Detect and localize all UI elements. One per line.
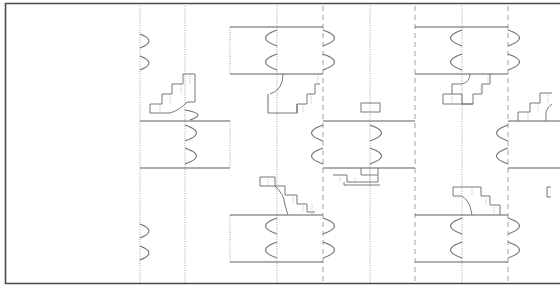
door-swing-icon <box>185 125 197 141</box>
door-swing-icon <box>451 218 463 234</box>
staircase-icon <box>453 187 500 215</box>
room-module <box>140 121 230 168</box>
stair-landing-icon <box>361 103 380 112</box>
door-swing-icon <box>312 125 324 141</box>
door-swing-icon <box>323 242 335 258</box>
door-swing-icon <box>312 148 324 164</box>
rooms <box>140 27 560 262</box>
room-module <box>230 215 323 262</box>
door-swing-icon <box>370 125 382 141</box>
door-swing-icon <box>508 54 520 70</box>
staircase-icon <box>260 177 315 215</box>
stair-landing-icon <box>547 187 551 197</box>
door-swing-icon <box>266 30 278 46</box>
floor-plan-svg <box>0 0 560 287</box>
door-swing-icon <box>323 54 335 70</box>
door-swing-icon <box>266 54 278 70</box>
grid-lines <box>140 6 508 283</box>
door-swing-icon <box>451 30 463 46</box>
door-swing-icon <box>508 218 520 234</box>
drawing-frame <box>6 4 560 284</box>
room-module <box>415 27 508 74</box>
door-swing-icon <box>266 242 278 258</box>
door-swing-icon <box>323 30 335 46</box>
staircase-icon <box>333 168 380 185</box>
door-swing-icon <box>323 218 335 234</box>
room-module <box>323 121 415 168</box>
door-swing-icon <box>508 242 520 258</box>
floor-plan-drawing <box>0 0 560 287</box>
door-swing-icon <box>266 218 278 234</box>
door-swing-icon <box>140 56 149 70</box>
door-swings <box>140 30 520 260</box>
staircase-icon <box>268 74 320 113</box>
door-swing-icon <box>370 148 382 164</box>
room-module <box>508 121 560 168</box>
staircases <box>150 74 552 215</box>
door-swing-icon <box>140 224 149 238</box>
door-swing-icon <box>451 242 463 258</box>
door-swing-icon <box>140 246 149 260</box>
room-module <box>415 215 508 262</box>
door-swing-icon <box>185 148 197 164</box>
room-module <box>230 27 323 74</box>
door-swing-icon <box>185 110 198 120</box>
door-swing-icon <box>140 34 149 48</box>
staircase-icon <box>150 74 195 113</box>
staircase-icon <box>443 74 490 104</box>
staircase-icon <box>518 93 552 121</box>
door-swing-icon <box>497 148 509 164</box>
door-swing-icon <box>497 125 509 141</box>
door-swing-icon <box>451 54 463 70</box>
door-swing-icon <box>508 30 520 46</box>
